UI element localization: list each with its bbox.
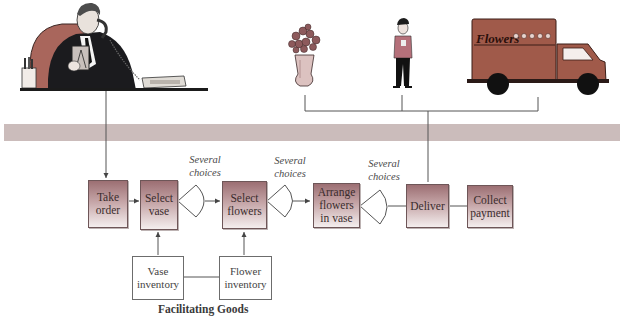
choices-line1: Several <box>189 154 221 165</box>
select-vase-line1: Select <box>145 192 173 204</box>
collect-line2: payment <box>470 207 510 219</box>
choices-line1: Several <box>368 158 400 169</box>
delivery-truck-illustration: Flowers <box>467 19 609 95</box>
take-order-line2: order <box>96 204 120 216</box>
arrange-line1: Arrange <box>318 186 356 198</box>
flower-inventory-box: Flowerinventory <box>219 256 272 300</box>
customer-on-phone-illustration <box>20 3 208 91</box>
select-flowers-line2: flowers <box>227 205 262 217</box>
step-select-vase: Selectvase <box>140 180 178 230</box>
delivery-person-illustration <box>393 18 412 88</box>
arrange-line3: in vase <box>320 212 352 224</box>
vase-of-flowers-illustration <box>289 24 321 86</box>
choices-label-vase: Severalchoices <box>183 153 227 179</box>
flower-inventory-line1: Flower <box>230 265 261 277</box>
take-order-line1: Take <box>97 191 119 203</box>
step-deliver: Deliver <box>406 184 449 228</box>
choices-line2: choices <box>274 168 306 179</box>
step-collect-payment: Collectpayment <box>467 185 513 228</box>
truck-flowers-label: Flowers <box>475 31 519 46</box>
step-take-order: Takeorder <box>88 180 128 228</box>
step-arrange-flowers: Arrangeflowersin vase <box>313 183 360 228</box>
choices-line2: choices <box>368 171 400 182</box>
vase-inventory-box: Vaseinventory <box>132 256 184 300</box>
select-flowers-line1: Select <box>230 192 258 204</box>
choices-label-flowers: Severalchoices <box>268 154 312 180</box>
choices-line2: choices <box>189 167 221 178</box>
flower-inventory-line2: inventory <box>224 278 266 290</box>
choices-line1: Several <box>274 155 306 166</box>
vase-inventory-line2: inventory <box>137 278 179 290</box>
collect-line1: Collect <box>473 194 506 206</box>
arrange-line2: flowers <box>319 199 354 211</box>
select-vase-line2: vase <box>149 205 169 217</box>
deliver-label: Deliver <box>410 200 444 213</box>
choices-label-arrange: Severalchoices <box>362 157 406 183</box>
facilitating-goods-caption: Facilitating Goods <box>158 303 248 315</box>
vase-inventory-line1: Vase <box>148 265 169 277</box>
step-select-flowers: Selectflowers <box>222 181 267 229</box>
